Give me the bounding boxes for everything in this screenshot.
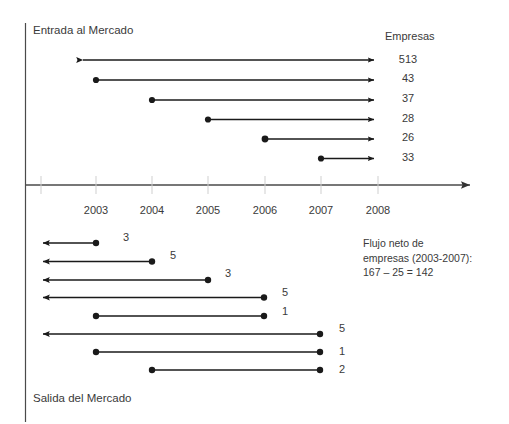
x-tick-label-2003: 2003 xyxy=(84,204,108,217)
exit-count-3: 3 xyxy=(225,267,231,280)
entry-count-4: 28 xyxy=(402,112,414,125)
x-tick-label-2005: 2005 xyxy=(196,204,220,217)
exit-row-6 xyxy=(43,331,323,337)
exit-row-3 xyxy=(43,277,211,283)
exit-count-8: 2 xyxy=(339,363,345,376)
entry-row-4 xyxy=(205,116,374,122)
exit-row-2 xyxy=(43,258,155,264)
entry-row-6 xyxy=(318,155,374,161)
x-tick-label-2004: 2004 xyxy=(140,204,164,217)
empresas-column-header: Empresas xyxy=(385,30,435,43)
entry-count-2: 43 xyxy=(402,72,414,85)
net-flow-annotation: Flujo neto de empresas (2003-2007): 167 … xyxy=(363,236,472,280)
x-tick-label-2007: 2007 xyxy=(309,204,333,217)
entry-row-2 xyxy=(93,77,374,83)
exit-count-6: 5 xyxy=(339,322,345,335)
exit-row-4 xyxy=(43,294,267,300)
entry-count-6: 33 xyxy=(402,151,414,164)
exit-count-2: 5 xyxy=(170,249,176,262)
entry-count-1: 513 xyxy=(399,53,417,66)
entry-count-3: 37 xyxy=(402,92,414,105)
x-tick-label-2006: 2006 xyxy=(253,204,277,217)
exit-count-1: 3 xyxy=(123,231,129,244)
entry-rows xyxy=(83,60,374,162)
exit-row-1 xyxy=(43,240,99,246)
exit-row-7 xyxy=(93,349,323,355)
chart-figure: Entrada al Mercado Salida del Mercado Em… xyxy=(0,0,509,424)
entry-row-3 xyxy=(149,97,374,103)
entry-section-title: Entrada al Mercado xyxy=(33,24,133,37)
exit-count-7: 1 xyxy=(339,345,345,358)
exit-count-5: 1 xyxy=(282,305,288,318)
exit-row-8 xyxy=(149,367,323,373)
x-tick-label-2008: 2008 xyxy=(366,204,390,217)
exit-row-5 xyxy=(93,313,267,319)
exit-section-title: Salida del Mercado xyxy=(33,392,131,405)
exit-count-4: 5 xyxy=(282,286,288,299)
entry-count-5: 26 xyxy=(402,131,414,144)
entry-row-5 xyxy=(262,136,374,143)
